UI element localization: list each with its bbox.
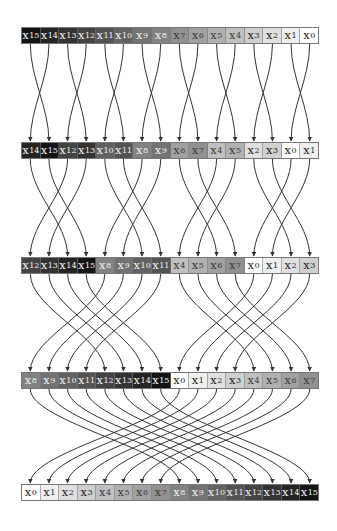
cell-x11: x11: [226, 485, 245, 500]
wire-x1: [272, 159, 309, 256]
wire-x3: [235, 274, 310, 371]
wire-x1: [49, 389, 198, 483]
wire-x5: [198, 159, 235, 256]
cell-x10: x10: [115, 28, 134, 43]
wire-x10: [105, 44, 124, 141]
wire-x9: [123, 159, 160, 256]
cell-x14: x14: [22, 143, 41, 158]
cell-x13: x13: [59, 28, 78, 43]
cell-x4: x4: [96, 485, 115, 500]
cell-x2: x2: [245, 143, 264, 158]
cell-x7: x7: [152, 485, 171, 500]
cell-x6: x6: [282, 373, 301, 388]
cell-x6: x6: [133, 485, 152, 500]
wire-x9: [49, 274, 124, 371]
cell-x2: x2: [59, 485, 78, 500]
cell-x3: x3: [78, 485, 97, 500]
cell-x11: x11: [96, 28, 115, 43]
cell-x3: x3: [245, 28, 264, 43]
cell-x12: x12: [245, 485, 264, 500]
cell-x6: x6: [189, 28, 208, 43]
cell-x7: x7: [300, 373, 318, 388]
cell-x0: x0: [22, 485, 41, 500]
cell-x14: x14: [41, 28, 60, 43]
wire-x8: [30, 274, 105, 371]
cell-x13: x13: [78, 143, 97, 158]
cell-x4: x4: [208, 143, 227, 158]
wire-x4: [217, 44, 236, 141]
cell-x3: x3: [300, 258, 318, 273]
cell-x15: x15: [41, 143, 60, 158]
cell-x14: x14: [59, 258, 78, 273]
cell-x14: x14: [282, 485, 301, 500]
cell-x5: x5: [208, 28, 227, 43]
cell-x15: x15: [22, 28, 41, 43]
cell-x5: x5: [115, 485, 134, 500]
cell-x2: x2: [282, 258, 301, 273]
wire-x12: [30, 159, 67, 256]
cell-x4: x4: [245, 373, 264, 388]
cell-x4: x4: [226, 28, 245, 43]
cell-x12: x12: [59, 143, 78, 158]
cell-x3: x3: [226, 373, 245, 388]
cell-x11: x11: [152, 258, 171, 273]
row-5: x0x1x2x3x4x5x6x7x8x9x10x11x12x13x14x15: [21, 484, 319, 501]
row-1: x15x14x13x12x11x10x9x8x7x6x5x4x3x2x1x0: [21, 27, 319, 44]
cell-x9: x9: [189, 485, 208, 500]
cell-x15: x15: [300, 485, 318, 500]
cell-x10: x10: [208, 485, 227, 500]
wire-x8: [105, 159, 142, 256]
cell-x6: x6: [208, 258, 227, 273]
cell-x9: x9: [41, 373, 60, 388]
cell-x2: x2: [263, 28, 282, 43]
cell-x1: x1: [263, 258, 282, 273]
cell-x9: x9: [115, 258, 134, 273]
cell-x13: x13: [115, 373, 134, 388]
cell-x12: x12: [22, 258, 41, 273]
cell-x5: x5: [226, 143, 245, 158]
cell-x8: x8: [152, 28, 171, 43]
wire-x3: [86, 389, 235, 483]
row-2: x14x15x12x13x10x11x8x9x6x7x4x5x2x3x0x1: [21, 142, 319, 159]
cell-x0: x0: [300, 28, 318, 43]
cell-x11: x11: [78, 373, 97, 388]
wire-x0: [254, 159, 291, 256]
cell-x3: x3: [263, 143, 282, 158]
cell-x1: x1: [300, 143, 318, 158]
cell-x11: x11: [115, 143, 134, 158]
wire-x14: [30, 44, 49, 141]
cell-x7: x7: [171, 28, 190, 43]
cell-x9: x9: [152, 143, 171, 158]
wire-x1: [198, 274, 273, 371]
wire-x11: [86, 274, 161, 371]
cell-x6: x6: [171, 143, 190, 158]
wire-x13: [49, 159, 86, 256]
wire-x4: [179, 159, 216, 256]
wire-x0: [179, 274, 254, 371]
cell-x10: x10: [96, 143, 115, 158]
wire-x2: [254, 44, 273, 141]
wire-x2: [68, 389, 217, 483]
cell-x2: x2: [208, 373, 227, 388]
cell-x7: x7: [226, 258, 245, 273]
wire-x7: [161, 389, 310, 483]
cell-x5: x5: [189, 258, 208, 273]
cell-x8: x8: [96, 258, 115, 273]
wire-x8: [142, 44, 161, 141]
cell-x12: x12: [96, 373, 115, 388]
cell-x15: x15: [152, 373, 171, 388]
cell-x0: x0: [245, 258, 264, 273]
wire-x5: [123, 389, 272, 483]
cell-x14: x14: [133, 373, 152, 388]
cell-x8: x8: [133, 143, 152, 158]
cell-x10: x10: [133, 258, 152, 273]
cell-x4: x4: [171, 258, 190, 273]
cell-x10: x10: [59, 373, 78, 388]
cell-x12: x12: [78, 28, 97, 43]
cell-x8: x8: [22, 373, 41, 388]
wire-x6: [179, 44, 198, 141]
cell-x8: x8: [171, 485, 190, 500]
wire-x6: [142, 389, 291, 483]
cell-x9: x9: [133, 28, 152, 43]
row-4: x8x9x10x11x12x13x14x15x0x1x2x3x4x5x6x7: [21, 372, 319, 389]
